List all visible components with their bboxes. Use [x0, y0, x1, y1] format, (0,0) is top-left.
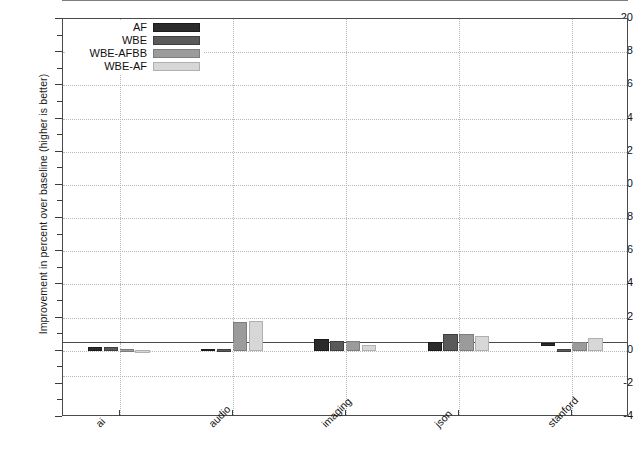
- gridline-y-8: [63, 218, 627, 219]
- gridline-y--2: [63, 376, 627, 377]
- gridline-x-audio-low: [233, 343, 234, 415]
- bar-chart: Improvement in percent over baseline (hi…: [0, 0, 633, 456]
- legend-item-WBE: WBE: [69, 35, 200, 46]
- legend-swatch-AF: [153, 23, 200, 32]
- y-tick--4: [55, 416, 62, 417]
- gridline-x-stanford-up: [572, 19, 573, 342]
- x-tick-ai: [119, 410, 120, 416]
- y-tick-20: [55, 18, 62, 19]
- chart-legend: AFWBEWBE-AFBBWBE-AF: [66, 20, 203, 75]
- y-tick-14: [55, 118, 62, 119]
- gridline-y-16: [63, 85, 627, 86]
- legend-label-WBE: WBE: [69, 35, 153, 46]
- legend-swatch-WBE: [153, 36, 200, 45]
- y-tick-16: [55, 84, 62, 85]
- legend-label-WBE-AFBB: WBE-AFBB: [69, 48, 153, 59]
- x-tick-label-ai: ai: [93, 415, 107, 429]
- legend-item-WBE-AFBB: WBE-AFBB: [69, 48, 200, 59]
- legend-item-WBE-AF: WBE-AF: [69, 61, 200, 72]
- gridline-y-12: [63, 152, 627, 153]
- legend-swatch-WBE-AFBB: [153, 49, 200, 58]
- gridline-y-4: [63, 284, 627, 285]
- y-tick-10: [55, 184, 62, 185]
- legend-label-WBE-AF: WBE-AF: [69, 61, 153, 72]
- bar-stanford-AF: [541, 343, 555, 346]
- gridline-y-2: [63, 318, 627, 319]
- gridline-x-json-low: [459, 343, 460, 415]
- gridline-x-audio-up: [233, 19, 234, 342]
- gridline-x-ai-low: [120, 343, 121, 415]
- x-tick-json: [458, 410, 459, 416]
- y-tick-6: [55, 250, 62, 251]
- gridline-x-json-up: [459, 19, 460, 342]
- y-tick-2: [55, 317, 62, 318]
- gridline-x-imaging-up: [346, 19, 347, 342]
- y-tick-18: [55, 51, 62, 52]
- y-tick--2: [55, 383, 62, 384]
- y-tick-12: [55, 151, 62, 152]
- legend-swatch-WBE-AF: [153, 62, 200, 71]
- legend-label-AF: AF: [69, 22, 153, 33]
- gridline-y-6: [63, 251, 627, 252]
- y-tick-0: [55, 350, 62, 351]
- gridline-y-14: [63, 119, 627, 120]
- y-tick-8: [55, 217, 62, 218]
- gridline-y-10: [63, 185, 627, 186]
- y-axis-title: Improvement in percent over baseline (hi…: [37, 9, 49, 399]
- zero-baseline: [62, 0, 628, 1]
- legend-item-AF: AF: [69, 22, 200, 33]
- y-tick-4: [55, 283, 62, 284]
